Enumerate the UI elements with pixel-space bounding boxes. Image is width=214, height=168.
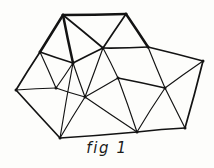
- mesh-vertex-inner-left-node: [55, 87, 58, 90]
- mesh-edge: [118, 78, 165, 88]
- mesh-vertex-central-hub-upper: [102, 47, 105, 50]
- mesh-vertex-right-mid-node: [164, 87, 167, 90]
- mesh-vertex-bottom-right-corner: [184, 127, 187, 130]
- mesh-edge: [40, 15, 63, 52]
- mesh-edge: [165, 88, 185, 128]
- mesh-edge: [126, 14, 148, 47]
- mesh-edge: [16, 52, 40, 90]
- mesh-vertex-top-left-apex: [62, 14, 65, 17]
- mesh-edge: [16, 88, 56, 90]
- mesh-edge: [56, 88, 85, 97]
- mesh-edge: [137, 128, 185, 132]
- mesh-edge: [103, 14, 126, 48]
- mesh-edge: [103, 48, 118, 78]
- mesh-edge: [73, 63, 85, 97]
- figure-caption: fig 1: [0, 139, 214, 157]
- mesh-edge: [16, 90, 60, 138]
- mesh-edge: [40, 52, 73, 63]
- mesh-edge: [63, 14, 126, 15]
- mesh-vertex-right-corner: [202, 60, 205, 63]
- mesh-vertex-left-corner: [15, 89, 18, 92]
- mesh-edge-layer: [16, 14, 203, 138]
- mesh-edge: [137, 88, 165, 132]
- mesh-vertex-upper-left-node: [39, 51, 42, 54]
- figure-container: fig 1: [0, 0, 214, 168]
- mesh-edge: [103, 47, 148, 48]
- mesh-vertex-upper-right-node: [147, 46, 150, 49]
- mesh-edge: [118, 78, 137, 132]
- mesh-vertex-inner-upper-node: [72, 62, 75, 65]
- mesh-vertex-top-right-apex: [125, 13, 128, 16]
- mesh-vertex-central-right-node: [117, 77, 120, 80]
- mesh-edge: [148, 47, 165, 88]
- mesh-vertex-bottom-mid-node: [136, 131, 139, 134]
- mesh-vertex-central-hub-lower: [84, 96, 87, 99]
- mesh-edge: [85, 78, 118, 97]
- mesh-edge: [148, 47, 203, 61]
- mesh-edge: [85, 97, 137, 132]
- mesh-edge: [60, 132, 137, 138]
